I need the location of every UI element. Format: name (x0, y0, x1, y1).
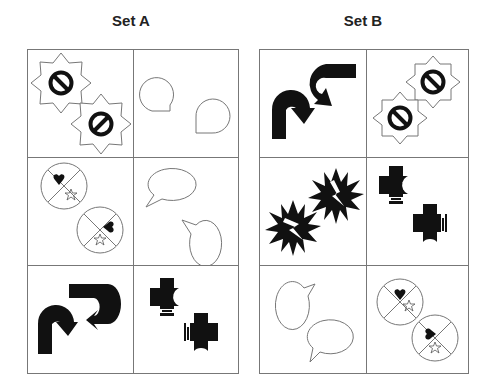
set-b-cell-6 (367, 266, 470, 374)
set-a-cell-5 (28, 266, 133, 374)
quartered-circle-icon (28, 158, 133, 265)
speech-bubble-icon (134, 158, 240, 265)
set-a-grid (27, 49, 239, 374)
set-a-title: Set A (71, 12, 191, 29)
speech-bubble-icon (134, 50, 240, 157)
quartered-circle-icon (367, 266, 470, 374)
set-a-cell-1 (28, 50, 133, 157)
set-b-grid (259, 49, 469, 374)
set-a-cell-2 (134, 50, 240, 157)
curved-arrow-icon (260, 50, 366, 157)
set-a-cell-6 (134, 266, 240, 374)
cross-icon (367, 158, 470, 265)
set-a-cell-4 (134, 158, 240, 265)
set-b-title: Set B (303, 12, 423, 29)
cross-icon (134, 266, 240, 374)
set-b-cell-2 (367, 50, 470, 157)
speech-bubble-icon (260, 266, 366, 374)
no-entry-starburst-icon (367, 50, 470, 157)
set-b-cell-3 (260, 158, 366, 265)
set-b-cell-5 (260, 266, 366, 374)
no-entry-starburst-icon (28, 50, 133, 157)
set-b-cell-4 (367, 158, 470, 265)
set-a-cell-3 (28, 158, 133, 265)
set-b-cell-1 (260, 50, 366, 157)
curved-arrow-icon (28, 266, 133, 374)
explosion-lightning-icon (260, 158, 366, 265)
